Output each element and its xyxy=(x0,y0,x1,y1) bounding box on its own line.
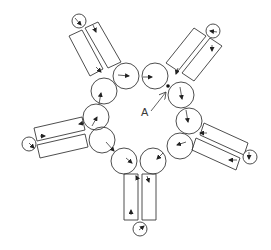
end-roller xyxy=(72,14,86,28)
flow-arrow xyxy=(118,75,129,76)
ring-roller-group xyxy=(83,63,202,174)
flow-arrow xyxy=(126,158,132,163)
ring-roller-7 xyxy=(111,148,137,174)
ring-roller-8 xyxy=(89,127,115,153)
arm-right xyxy=(192,123,257,170)
ring-roller-2 xyxy=(142,63,168,89)
flow-arrow xyxy=(186,110,188,122)
ring-roller-5 xyxy=(167,133,193,159)
ring-roller-10 xyxy=(91,78,117,104)
end-roller xyxy=(243,150,257,164)
guide-rect-1 xyxy=(34,117,85,141)
ring-roller-9 xyxy=(83,104,109,130)
guide-rect-2 xyxy=(192,138,240,170)
flow-arrow xyxy=(99,93,101,104)
flow-arrow xyxy=(93,25,96,32)
ring-roller-6 xyxy=(140,148,166,174)
flow-arrow xyxy=(157,153,163,159)
flow-arrow xyxy=(92,117,97,126)
flow-arrow xyxy=(177,142,186,145)
arm-bottom xyxy=(124,174,156,236)
arm-left xyxy=(22,117,88,158)
guide-rect-1 xyxy=(200,123,248,155)
arm-upper-left xyxy=(69,14,121,76)
flow-arrow-group xyxy=(29,18,249,230)
guide-rect-1 xyxy=(166,28,206,71)
end-roller xyxy=(22,137,36,151)
contact-point-dot xyxy=(166,84,170,88)
roller-ring-diagram: A xyxy=(0,0,271,250)
label-a: A xyxy=(141,106,149,118)
guide-rect-2 xyxy=(182,38,222,81)
end-roller xyxy=(206,24,220,38)
guide-rect-2 xyxy=(37,134,88,158)
flow-arrow xyxy=(180,87,182,99)
arm-upper-right xyxy=(166,24,222,81)
arm-group xyxy=(22,14,257,236)
label-a-pointer-arrow xyxy=(151,92,166,111)
ring-roller-4 xyxy=(176,108,202,134)
flow-arrow xyxy=(147,176,149,182)
